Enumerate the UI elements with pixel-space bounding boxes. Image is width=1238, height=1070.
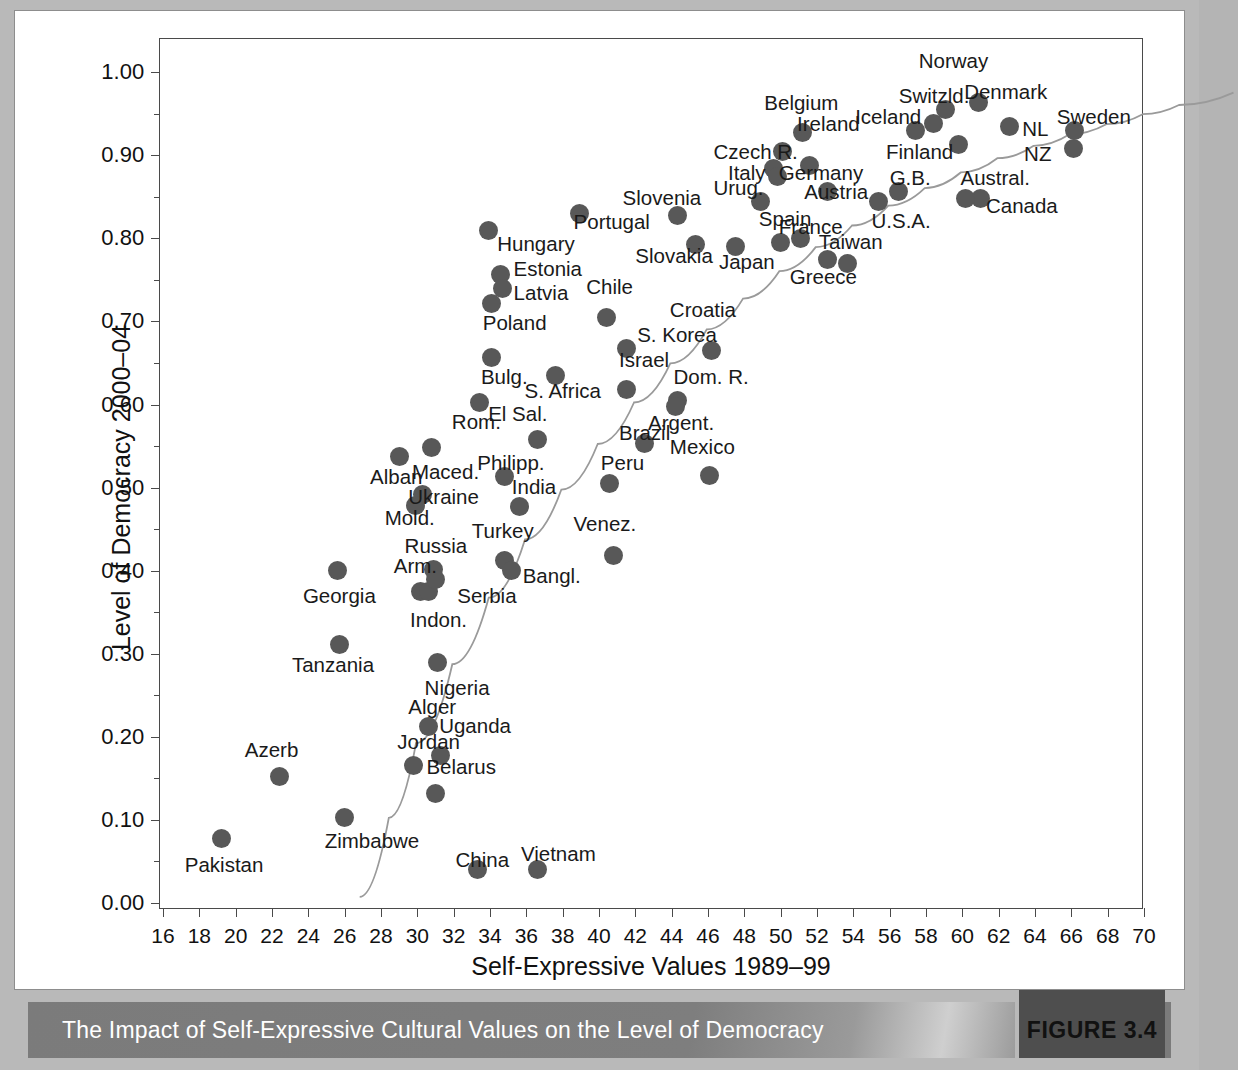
data-point-label: Canada: [986, 196, 1058, 217]
data-point-label: Iceland: [855, 107, 921, 128]
figure-number-backdrop: FIGURE 3.4: [1015, 1002, 1165, 1058]
data-point: [426, 784, 445, 803]
x-tick: [781, 908, 782, 917]
data-point-label: Bulg.: [481, 367, 528, 388]
data-point: [668, 206, 687, 225]
x-tick-label: 22: [260, 924, 283, 948]
data-point-label: Indon.: [410, 610, 467, 631]
x-tick-label: 70: [1132, 924, 1155, 948]
x-tick-label: 18: [188, 924, 211, 948]
y-tick: [151, 72, 160, 73]
data-point-label: Bangl.: [523, 566, 581, 587]
data-point-label: Slovenia: [623, 188, 702, 209]
data-point-label: Dom. R.: [673, 367, 748, 388]
x-tick-label: 24: [297, 924, 320, 948]
data-point: [604, 546, 623, 565]
y-tick: [151, 238, 160, 239]
y-tick: [151, 571, 160, 572]
x-tick-label: 68: [1096, 924, 1119, 948]
data-point-label: Taiwan: [819, 232, 883, 253]
data-point-label: Turkey: [472, 521, 534, 542]
y-tick-label: 0.40: [101, 558, 150, 584]
x-tick-label: 54: [842, 924, 865, 948]
data-point-label: Vietnam: [521, 844, 596, 865]
data-point-label: Switzld.: [899, 86, 970, 107]
x-tick-label: 40: [587, 924, 610, 948]
x-tick-label: 58: [914, 924, 937, 948]
data-point: [422, 438, 441, 457]
x-tick-label: 62: [987, 924, 1010, 948]
data-point: [390, 447, 409, 466]
data-point-label: Arm.: [394, 556, 437, 577]
data-point-label: Chile: [586, 277, 633, 298]
data-point: [869, 192, 888, 211]
data-point: [335, 808, 354, 827]
data-point: [428, 653, 447, 672]
data-point-label: NZ: [1024, 144, 1051, 165]
data-point-label: S. Korea: [637, 325, 717, 346]
y-tick-label: 0.90: [101, 142, 150, 168]
x-tick: [999, 908, 1000, 917]
x-tick: [853, 908, 854, 917]
data-point-label: Ireland: [797, 114, 860, 135]
data-point-label: Tanzania: [292, 655, 374, 676]
data-point-label: U.S.A.: [872, 211, 931, 232]
chart-area: Level of Democracy 2000–04 NorwayDenmark…: [15, 11, 1186, 991]
data-point: [482, 294, 501, 313]
y-tick-label: 0.20: [101, 724, 150, 750]
data-point-label: Azerb: [245, 740, 299, 761]
data-point-label: Denmark: [964, 82, 1047, 103]
data-point-label: Estonia: [514, 259, 582, 280]
figure-caption-bar: The Impact of Self-Expressive Cultural V…: [28, 1002, 1171, 1058]
y-tick-label: 0.30: [101, 641, 150, 667]
data-point-label: Belarus: [426, 757, 496, 778]
data-point-label: Norway: [919, 51, 989, 72]
x-tick: [381, 908, 382, 917]
y-tick-label: 0.50: [101, 475, 150, 501]
x-tick-label: 34: [478, 924, 501, 948]
y-tick-label: 0.00: [101, 890, 150, 916]
y-tick: [154, 114, 160, 115]
y-tick: [151, 654, 160, 655]
x-tick-label: 48: [733, 924, 756, 948]
y-tick-label: 0.70: [101, 308, 150, 334]
y-tick: [154, 529, 160, 530]
y-tick-label: 1.00: [101, 59, 150, 85]
data-point-label: Urug.: [713, 178, 763, 199]
data-point-label: Georgia: [303, 586, 376, 607]
x-tick-label: 30: [406, 924, 429, 948]
data-point: [328, 561, 347, 580]
figure-number-label: FIGURE 3.4: [1019, 1017, 1165, 1044]
data-point: [1064, 139, 1083, 158]
data-point-label: Sweden: [1057, 107, 1131, 128]
data-point: [212, 829, 231, 848]
x-tick: [199, 908, 200, 917]
figure-paper: Level of Democracy 2000–04 NorwayDenmark…: [14, 10, 1185, 990]
x-tick-label: 20: [224, 924, 247, 948]
data-point-label: Brazil: [619, 423, 670, 444]
data-point-label: Israel: [619, 350, 669, 371]
data-point-label: Ukraine: [408, 487, 479, 508]
x-tick: [599, 908, 600, 917]
x-tick-label: 66: [1060, 924, 1083, 948]
data-point: [330, 635, 349, 654]
y-tick: [154, 778, 160, 779]
x-axis-title: Self-Expressive Values 1989–99: [159, 952, 1143, 981]
data-point-label: Philipp.: [477, 453, 544, 474]
x-tick: [926, 908, 927, 917]
data-point: [510, 497, 529, 516]
data-point-label: Austria: [804, 182, 868, 203]
x-tick: [708, 908, 709, 917]
y-tick: [154, 861, 160, 862]
data-point-label: Zimbabwe: [325, 831, 420, 852]
data-point: [956, 189, 975, 208]
x-tick: [272, 908, 273, 917]
y-tick: [154, 446, 160, 447]
x-tick: [672, 908, 673, 917]
x-tick: [526, 908, 527, 917]
x-tick: [163, 908, 164, 917]
data-point-label: Venez.: [574, 514, 637, 535]
y-tick: [151, 405, 160, 406]
data-point-label: Belgium: [764, 93, 838, 114]
